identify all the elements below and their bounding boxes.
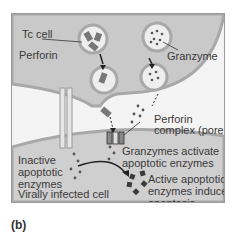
perforin-label: Perforin: [19, 49, 58, 61]
active-enzymes-label: Active apoptotic: [148, 173, 225, 185]
granzymes-activate-label: Granzymes activate: [122, 145, 219, 157]
perforin-complex-label-2: complex (pore): [154, 124, 225, 136]
inactive-enzymes-label-2: apoptotic: [18, 166, 63, 178]
granzyme-vesicle-icon: [143, 23, 171, 51]
active-enzymes-label-2: enzymes induce: [148, 185, 225, 197]
tc-cell-label: Tc cell: [22, 28, 53, 40]
panel-label: (b): [11, 218, 26, 232]
granzymes-activate-label-2: apoptotic enzymes: [122, 157, 214, 169]
granzyme-label: Granzyme: [167, 50, 218, 62]
diagram-frame: Tc cell Perforin Granzyme Perforin compl…: [11, 13, 225, 203]
inactive-enzymes-label: Inactive: [18, 154, 56, 166]
receptor-icon: [60, 88, 65, 148]
perforin-pore-icon: [107, 132, 112, 144]
infected-cell-label: Virally infected cell: [18, 188, 109, 200]
active-enzymes-label-3: apoptosis: [148, 197, 195, 203]
